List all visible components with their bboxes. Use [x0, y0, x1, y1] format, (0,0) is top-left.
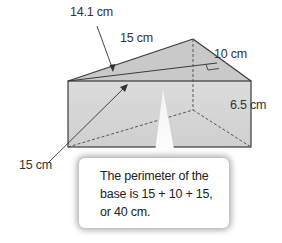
callout-line: or 40 cm.: [100, 203, 219, 221]
callout-box: The perimeter of the base is 15 + 10 + 1…: [79, 158, 229, 228]
label-height: 6.5 cm: [230, 98, 266, 112]
label-bottom-edge: 15 cm: [19, 158, 52, 172]
label-short-edge: 10 cm: [214, 47, 247, 61]
label-slant-height: 14.1 cm: [70, 5, 113, 19]
label-top-edge: 15 cm: [120, 31, 153, 45]
callout-line: base is 15 + 10 + 15,: [100, 185, 219, 203]
callout-line: The perimeter of the: [100, 167, 219, 185]
leader-slant-height: [97, 26, 113, 70]
